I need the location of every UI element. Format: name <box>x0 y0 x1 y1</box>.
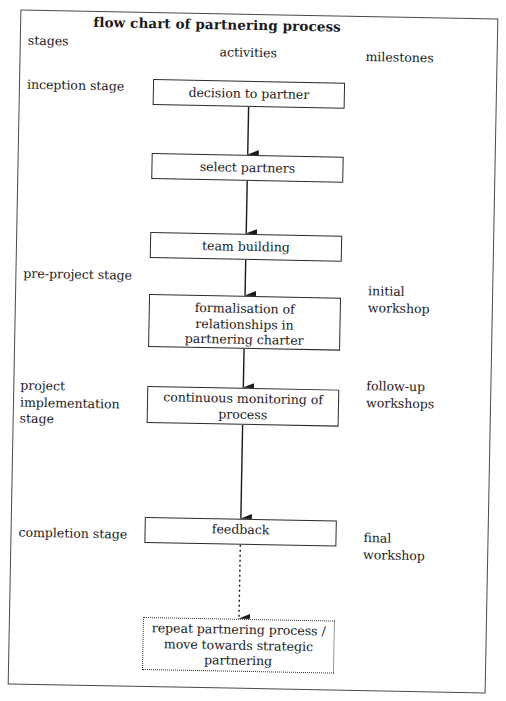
activity-repeat-partnering-process: repeat partnering process / move towards… <box>141 616 334 673</box>
arrow-feedback-to-repeat <box>238 544 239 618</box>
arrow-decision-to-select <box>247 106 248 154</box>
activity-formalisation-of-relationships: formalisation of relationships in partne… <box>148 294 341 351</box>
connector-arrows <box>8 10 499 694</box>
arrow-select-to-team <box>246 180 247 233</box>
diagram-frame: flow chart of partnering process stages … <box>7 9 498 693</box>
activity-decision-to-partner-label: decision to partner <box>188 84 309 102</box>
activity-feedback: feedback <box>144 516 336 546</box>
activity-formalisation-text: formalisation of relationships in partne… <box>153 299 336 349</box>
activity-select-partners: select partners <box>151 153 343 183</box>
activity-team-building-label: team building <box>201 238 289 255</box>
activity-team-building: team building <box>149 232 341 262</box>
activity-formalisation-line-1: formalisation of relationships in <box>153 299 336 333</box>
arrow-monitoring-to-feedback <box>240 424 242 518</box>
activity-continuous-monitoring-line-1: continuous monitoring of <box>163 389 323 408</box>
activity-continuous-monitoring: continuous monitoring of process <box>146 386 339 427</box>
activity-decision-to-partner: decision to partner <box>152 79 344 109</box>
activity-repeat-text: repeat partnering process / move towards… <box>151 620 326 670</box>
arrow-formalisation-to-monitoring <box>243 348 244 387</box>
activity-repeat-line-2: move towards strategic <box>151 635 325 654</box>
activity-formalisation-line-2: partnering charter <box>153 330 335 349</box>
activity-continuous-monitoring-text: continuous monitoring of process <box>162 389 322 423</box>
activity-select-partners-label: select partners <box>199 159 295 176</box>
arrow-team-to-formalisation <box>245 259 246 295</box>
activity-feedback-label: feedback <box>211 521 269 538</box>
